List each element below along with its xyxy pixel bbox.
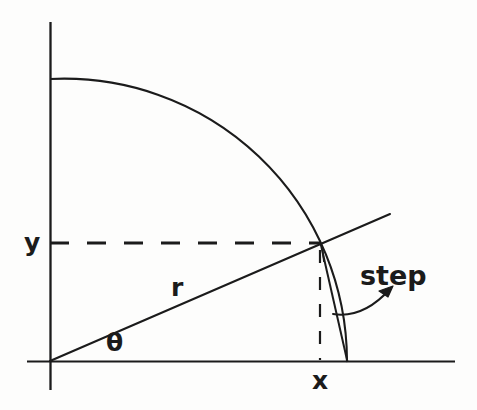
x-axis-label: x	[312, 368, 328, 393]
figure-root: y x r θ step	[0, 0, 477, 410]
polar-step-diagram	[0, 0, 477, 410]
y-axis-label: y	[24, 230, 40, 255]
arc-quarter-circle	[50, 79, 347, 361]
step-label: step	[360, 262, 427, 289]
radius-label: r	[171, 275, 183, 300]
angle-theta-label: θ	[106, 330, 123, 355]
radius-ray	[50, 214, 390, 361]
